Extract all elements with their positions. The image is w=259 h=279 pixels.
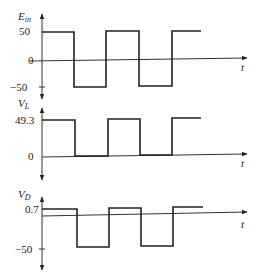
waveform-vl: [42, 118, 201, 156]
plot-vl: VL t 49.3 0: [15, 97, 247, 180]
plot-ein: Ein t 50 0 −50: [10, 10, 247, 99]
ylabel-vl: VL: [18, 97, 30, 111]
tick-vd-0-7: 0.7: [25, 203, 39, 215]
xlabel-vd: t: [241, 218, 245, 230]
xlabel-ein: t: [241, 61, 245, 73]
tick-vd-neg50: −50: [15, 243, 33, 255]
waveform-diagram: Ein t 50 0 −50 VL t 49.3 0 VD t 0.7 −50: [0, 0, 259, 279]
tick-ein-0: 0: [28, 54, 34, 66]
xlabel-vl: t: [241, 157, 245, 169]
tick-vl-0: 0: [28, 150, 34, 162]
ylabel-ein: Ein: [17, 10, 31, 24]
tick-vl-49-3: 49.3: [15, 114, 35, 126]
ylabel-vd: VD: [18, 188, 31, 202]
tick-ein-neg50: −50: [10, 81, 28, 93]
x-axis-vd: [42, 212, 247, 216]
plot-vd: VD t 0.7 −50: [15, 188, 247, 270]
tick-ein-50: 50: [19, 25, 31, 37]
